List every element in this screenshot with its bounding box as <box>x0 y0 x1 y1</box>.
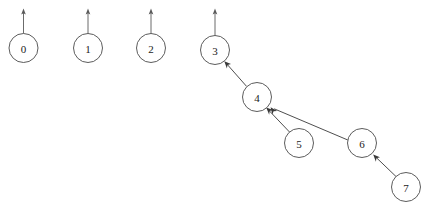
node-0-label: 0 <box>21 43 27 55</box>
node-4-label: 4 <box>254 92 260 104</box>
node-1-label: 1 <box>85 43 91 55</box>
node-3[interactable]: 3 <box>201 36 230 65</box>
node-7-label: 7 <box>403 182 409 194</box>
root-arrow-group <box>21 9 217 36</box>
node-1[interactable]: 1 <box>74 34 103 63</box>
root-arrow-1 <box>86 9 91 34</box>
node-6[interactable]: 6 <box>348 129 377 158</box>
edge-7-to-6 <box>373 155 396 177</box>
node-5-label: 5 <box>296 138 302 150</box>
node-4[interactable]: 4 <box>243 83 272 112</box>
edge-4-to-3-line <box>227 64 247 86</box>
root-arrow-2 <box>149 9 154 34</box>
root-arrow-3 <box>213 9 218 36</box>
root-arrow-0 <box>21 9 26 34</box>
node-0[interactable]: 0 <box>9 34 38 63</box>
edge-4-to-3 <box>224 61 246 86</box>
disjoint-set-forest-diagram: 0 1 2 3 4 5 6 <box>0 0 427 207</box>
node-7[interactable]: 7 <box>392 173 421 202</box>
node-3-label: 3 <box>212 45 218 57</box>
node-2-label: 2 <box>148 43 154 55</box>
node-group: 0 1 2 3 4 5 6 <box>9 34 421 202</box>
edge-7-to-6-line <box>376 157 396 176</box>
graph-canvas: 0 1 2 3 4 5 6 <box>0 0 427 207</box>
node-2[interactable]: 2 <box>137 34 166 63</box>
edge-group <box>224 61 396 176</box>
node-6-label: 6 <box>359 138 365 150</box>
edge-5-to-4 <box>266 108 289 132</box>
node-5[interactable]: 5 <box>285 129 314 158</box>
